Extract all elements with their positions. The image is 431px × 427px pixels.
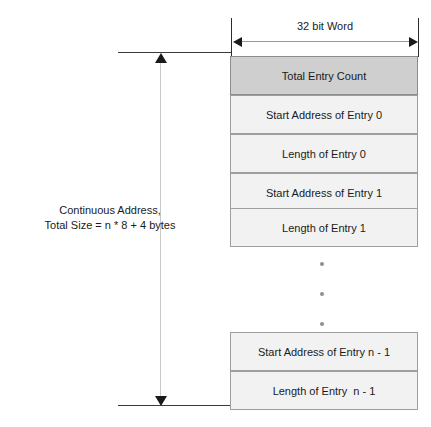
ellipsis-dot — [320, 292, 324, 296]
arrow-left-icon — [233, 37, 242, 47]
memory-row-total-entry-count: Total Entry Count — [230, 56, 418, 95]
memory-row-length-entry-n-1: Length of Entry n - 1 — [230, 371, 418, 410]
memory-row-start-address-entry-1: Start Address of Entry 1 — [230, 173, 418, 212]
continuous-address-caption: Continuous Address, Total Size = n * 8 +… — [10, 203, 210, 233]
caption-line-1: Continuous Address, — [10, 203, 210, 218]
arrow-down-icon — [155, 396, 167, 406]
word-width-label: 32 bit Word — [231, 20, 419, 33]
caption-line-2: Total Size = n * 8 + 4 bytes — [10, 218, 210, 233]
ellipsis-dot — [320, 322, 324, 326]
memory-row-start-address-entry-n-1: Start Address of Entry n - 1 — [230, 332, 418, 371]
word-dimension-line — [234, 41, 416, 42]
arrow-right-icon — [409, 37, 418, 47]
ellipsis-dot — [320, 262, 324, 266]
memory-layout-diagram: 32 bit Word Continuous Address, Total Si… — [0, 0, 431, 427]
memory-row-start-address-entry-0: Start Address of Entry 0 — [230, 95, 418, 134]
memory-row-length-entry-1: Length of Entry 1 — [230, 208, 418, 247]
memory-row-length-entry-0: Length of Entry 0 — [230, 134, 418, 173]
vertical-ellipsis-icon — [316, 262, 328, 326]
arrow-up-icon — [155, 53, 167, 63]
extent-rule-top — [118, 52, 231, 53]
